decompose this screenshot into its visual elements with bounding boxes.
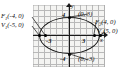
ellipse-figure: y x 4 -4 -3 3 F1(-4, 0) V1(-5, 0) F2(4, … (0, 0, 131, 73)
x-tick-positive: 3 (82, 38, 85, 44)
x-tick-negative: -3 (46, 38, 51, 44)
focus-right-coords: (4, 0) (101, 18, 115, 25)
y-axis-label: y (71, 3, 74, 9)
x-axis-label: x (100, 37, 103, 43)
vertex-left-coords: (-5, 0) (7, 21, 23, 28)
vertex-left-label: V1(-5, 0) (1, 22, 24, 31)
covertex-bottom-label: (0, -3) (78, 56, 94, 63)
covertex-top-label: (0, 3) (78, 11, 92, 18)
y-tick-positive: 4 (62, 12, 65, 18)
y-tick-negative: -4 (60, 56, 65, 62)
vertex-right-label: V2(5, 0) (97, 28, 118, 37)
vertex-right-coords: (5, 0) (103, 27, 117, 34)
focus-left-coords: (-4, 0) (7, 12, 23, 19)
